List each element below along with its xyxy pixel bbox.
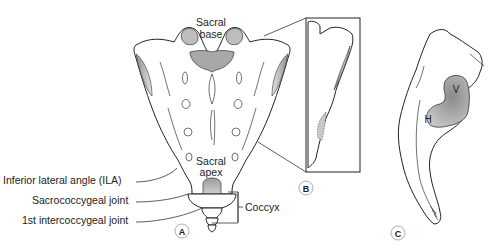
label-coccyx: Coccyx [245,201,280,213]
leader-sacrococcygeal [136,194,188,202]
label-sacral-apex-line2: apex [200,166,224,178]
coccyx-bracket [238,192,243,222]
label-h: H [424,114,431,125]
coccyx-segment-4 [208,225,216,232]
label-v: V [453,84,460,95]
coccyx-segment-3 [206,218,218,225]
right-articular-process-shade [226,28,243,44]
label-ila: Inferior lateral angle (ILA) [3,174,121,186]
zoom-line-top [264,18,306,36]
leader-intercoccygeal [136,208,202,222]
panel-a-label: A [179,227,186,237]
label-sacral-base-line1: Sacral [196,16,226,28]
sacrum-diagram: Sacral base Sacral apex Inferior lateral… [0,0,494,246]
label-intercoccygeal-joint: 1st intercoccygeal joint [22,214,128,226]
panel-c-lateral-sacrum: V H C [391,30,484,241]
label-sacrococcygeal-joint: Sacrococcygeal joint [32,194,128,206]
left-articular-process-shade [181,28,198,44]
coccyx-segment-2 [202,208,222,218]
panel-b-label: B [303,184,310,194]
leader-ila [136,168,177,182]
zoom-line-bottom [258,142,306,172]
label-sacral-base-line2: base [200,28,223,40]
sacral-hiatus-shade [203,178,221,194]
coccyx-segment-1 [188,194,236,208]
panel-c-label: C [395,229,402,239]
